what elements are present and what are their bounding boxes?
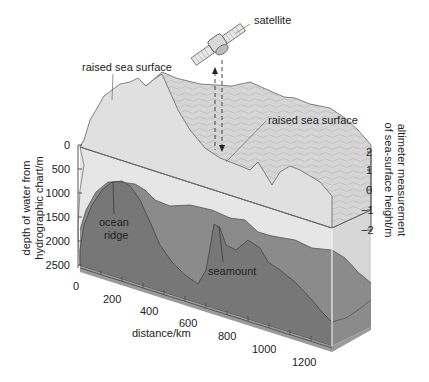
left-tick-1000: 1000 [46, 187, 70, 199]
left-axis-label-line2: hydrographic chart/m [33, 156, 45, 259]
right-tick-minus2: −2 [361, 224, 374, 236]
seamount-label: seamount [208, 265, 256, 277]
right-axis-label-line1: altimeter measurement [396, 124, 408, 237]
raised-sea-surface-label-left: raised sea surface [82, 61, 172, 73]
ocean-altimetry-diagram: 0 500 1000 1500 2000 2500 depth of water… [0, 0, 429, 382]
left-tick-500: 500 [52, 163, 70, 175]
ocean-ridge-label-line1: ocean [99, 216, 129, 228]
left-tick-1500: 1500 [46, 211, 70, 223]
right-tick-0: 0 [366, 184, 372, 196]
satellite-label: satellite [254, 14, 291, 26]
right-tick-2: 2 [366, 146, 372, 158]
distance-tick-400: 400 [140, 305, 158, 317]
left-tick-2000: 2000 [46, 235, 70, 247]
distance-axis-label: distance/km [132, 327, 191, 339]
left-tick-0: 0 [64, 139, 70, 151]
satellite-icon [189, 20, 249, 70]
right-axis-label-line2: of sea-surface height/m [383, 123, 395, 238]
left-tick-2500: 2500 [46, 259, 70, 271]
left-axis-label-line1: depth of water from [20, 161, 32, 256]
distance-tick-1000: 1000 [252, 343, 276, 355]
distance-tick-800: 800 [218, 330, 236, 342]
right-tick-minus1: −1 [361, 204, 374, 216]
left-depth-axis: 0 500 1000 1500 2000 2500 depth of water… [20, 139, 82, 271]
distance-tick-200: 200 [103, 293, 121, 305]
distance-tick-1200: 1200 [292, 356, 316, 368]
ocean-ridge-label-line2: ridge [104, 229, 128, 241]
right-tick-1: 1 [366, 164, 372, 176]
up-arrow-icon [212, 67, 218, 74]
distance-tick-0: 0 [73, 280, 79, 292]
raised-sea-surface-label-right: raised sea surface [268, 114, 358, 126]
